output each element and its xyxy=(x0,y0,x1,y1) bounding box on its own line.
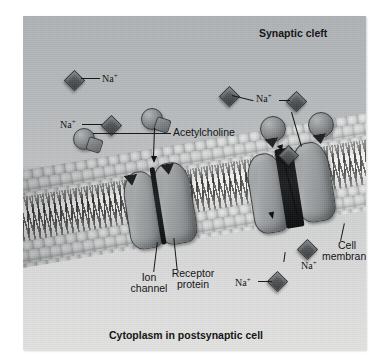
na-charge: + xyxy=(72,118,76,126)
na-text: Na xyxy=(235,277,247,288)
label-na-cytoplasm-2: Na+ xyxy=(235,275,251,288)
acetylcholine-bound-left xyxy=(141,108,163,130)
na-charge: + xyxy=(313,259,317,267)
leader-na-cyto-2 xyxy=(258,281,272,282)
label-cell-membrane-line2: membrane xyxy=(322,250,366,262)
na-text: Na xyxy=(301,260,313,271)
label-na-cytoplasm-1: Na+ xyxy=(301,258,317,271)
label-acetylcholine: Acetylcholine xyxy=(173,127,235,138)
acetylcholine-free-1 xyxy=(73,128,95,150)
label-na-cleft-3: Na+ xyxy=(256,91,272,104)
label-ion-channel-line2: channel xyxy=(131,282,168,294)
label-cytoplasm: Cytoplasm in postsynaptic cell xyxy=(109,330,263,341)
na-text: Na xyxy=(102,73,114,84)
label-synaptic-cleft: Synaptic cleft xyxy=(259,28,327,39)
leader-na-cleft-1 xyxy=(81,78,100,79)
synapse-receptor-diagram: Synaptic cleft Cytoplasm in postsynaptic… xyxy=(23,16,366,350)
leader-na-cleft-2 xyxy=(82,124,102,125)
label-cell-membrane: Cell membrane xyxy=(316,240,366,262)
leader-na-cleft-4 xyxy=(279,100,290,101)
na-charge: + xyxy=(268,92,272,100)
na-charge: + xyxy=(114,72,118,80)
leader-acetylcholine xyxy=(93,133,171,134)
na-text: Na xyxy=(256,93,268,104)
label-na-cleft-2: Na+ xyxy=(60,117,76,130)
receptor-left xyxy=(118,149,208,256)
na-charge: + xyxy=(247,276,251,284)
label-na-cleft-1: Na+ xyxy=(102,71,118,84)
na-text: Na xyxy=(60,119,72,130)
label-receptor-protein-line2: protein xyxy=(177,278,209,290)
label-ion-channel: Ion channel xyxy=(121,272,177,294)
